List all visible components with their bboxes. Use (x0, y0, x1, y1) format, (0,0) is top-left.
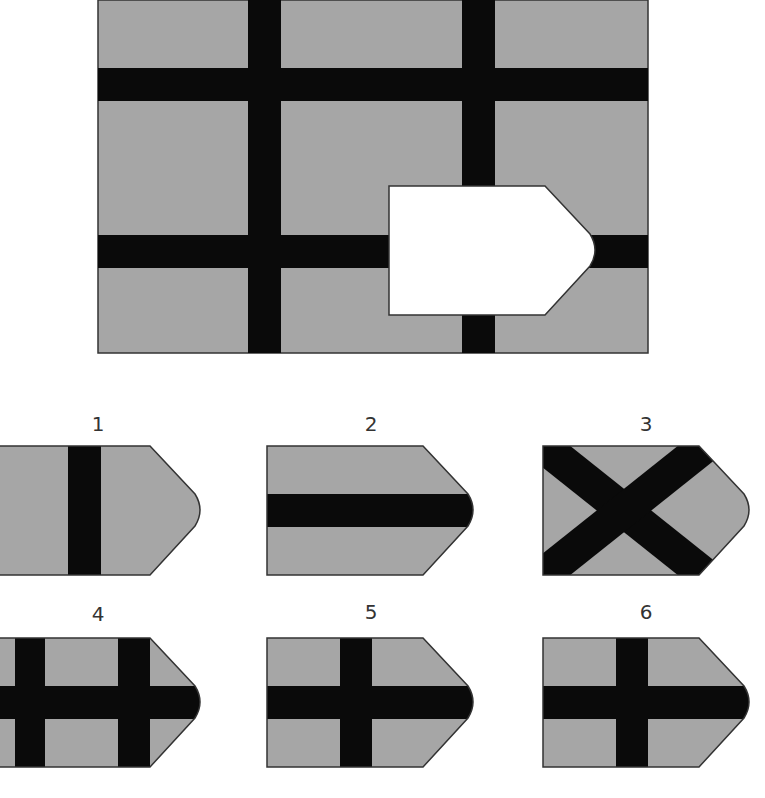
option-3[interactable]: 3 (530, 410, 765, 580)
option-2[interactable]: 2 (255, 410, 485, 580)
option-5-shape (255, 600, 485, 770)
board-grid (98, 0, 648, 353)
option-4[interactable]: 4 (0, 600, 220, 770)
option-5[interactable]: 5 (255, 600, 485, 770)
option-6-shape (530, 600, 765, 770)
puzzle-board (0, 0, 765, 360)
option-4-shape (0, 600, 220, 770)
option-1-shape (0, 410, 220, 580)
option-2-shape (255, 410, 485, 580)
option-3-shape (530, 410, 765, 580)
option-6[interactable]: 6 (530, 600, 765, 770)
option-1[interactable]: 1 (0, 410, 220, 580)
